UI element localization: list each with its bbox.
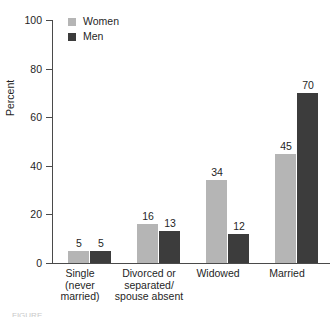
- y-tick-label-80: 80: [30, 64, 42, 74]
- bar-married-men: [297, 93, 318, 263]
- y-axis-title: Percent: [4, 80, 16, 116]
- bar-value-married-men: 70: [293, 80, 323, 91]
- bar-value-widowed-men: 12: [224, 221, 254, 232]
- x-label-married: Married: [239, 268, 334, 280]
- bar-divorced-men: [159, 231, 180, 263]
- bar-value-divorced-men: 13: [155, 218, 185, 229]
- y-tick-label-0: 0: [36, 258, 42, 268]
- y-tick-label-20: 20: [30, 209, 42, 219]
- figure-caption-clipped: FIGURE: [12, 311, 312, 317]
- bar-value-widowed-women: 34: [202, 167, 232, 178]
- y-tick-0: [46, 263, 52, 264]
- bar-divorced-women: [137, 224, 158, 263]
- bar-value-single-men: 5: [86, 238, 116, 249]
- x-label-married-line1: Married: [239, 268, 334, 280]
- x-label-divorced-line3: spouse absent: [101, 291, 197, 303]
- y-tick-label-60: 60: [30, 112, 42, 122]
- bar-widowed-men: [228, 234, 249, 263]
- bar-married-women: [275, 154, 296, 263]
- plot-area: 5 5 16 13 34 12 45 70: [52, 20, 330, 263]
- bar-single-men: [90, 251, 111, 263]
- y-tick-label-100: 100: [24, 15, 42, 25]
- y-tick-label-40: 40: [30, 161, 42, 171]
- bar-single-women: [68, 251, 89, 263]
- bar-chart: Percent 100 80 60 40 20 0 Women Men 5 5: [0, 0, 334, 317]
- x-axis-line: [46, 263, 330, 264]
